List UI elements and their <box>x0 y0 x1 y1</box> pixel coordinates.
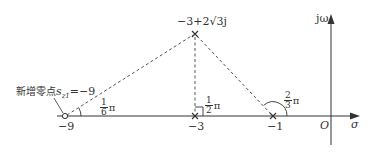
angle-label-pole1: 23π <box>284 91 299 110</box>
dashed-line-zero-to-pole <box>67 35 193 115</box>
tick-label-minus9: −9 <box>58 121 74 132</box>
angle-den: 6 <box>101 108 107 117</box>
annotation-text: 新增零点 <box>16 86 56 97</box>
origin-label: O <box>320 120 329 131</box>
imag-axis-label: jω <box>316 13 328 24</box>
angle-arc-zero <box>79 108 81 116</box>
angle-unit: π <box>214 100 221 111</box>
angle-label-pole3: 12π <box>205 96 220 115</box>
annotation-eq: =−9 <box>70 85 95 98</box>
angle-unit: π <box>293 95 300 106</box>
real-axis-label: σ <box>351 119 359 130</box>
pole-marker-icon <box>192 31 198 37</box>
complex-pole-label: −3+2√3j <box>177 16 227 27</box>
angle-label-zero: 16π <box>100 98 115 117</box>
angle-den: 2 <box>206 106 212 115</box>
tick-label-minus1: −1 <box>267 121 283 132</box>
new-zero-annotation: 新增零点sz1=−9 <box>16 86 95 100</box>
imag-axis-arrow-icon <box>328 14 335 24</box>
annotation-subscript: z1 <box>62 92 70 100</box>
zero-marker-icon <box>62 113 67 118</box>
angle-den: 3 <box>285 101 291 110</box>
annotation-leader-line <box>54 98 63 113</box>
angle-unit: π <box>109 102 116 113</box>
tick-label-minus3: −3 <box>188 121 204 132</box>
